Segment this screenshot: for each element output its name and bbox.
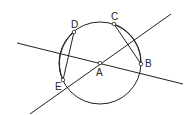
label-e: E <box>55 82 62 92</box>
geometry-diagram <box>0 0 192 115</box>
arc-de <box>59 32 74 80</box>
label-b: B <box>145 59 152 69</box>
point-d <box>72 30 76 34</box>
point-a <box>98 61 102 65</box>
point-b <box>139 62 143 66</box>
chord-de <box>63 32 74 80</box>
label-c: C <box>111 12 118 22</box>
label-d: D <box>71 20 78 30</box>
point-c <box>112 22 116 26</box>
label-a: A <box>96 68 103 78</box>
